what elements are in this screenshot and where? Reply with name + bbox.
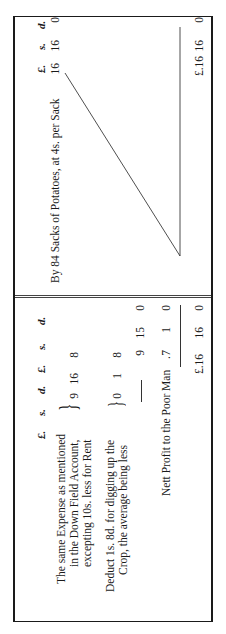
credit-total-pounds: £.16 (193, 56, 206, 76)
credit-total-shillings: 16 (193, 40, 205, 58)
rotated-account-page: £. s. d. £. s. d. The same Expense as me… (0, 0, 226, 634)
cancellation-lines (15, 15, 215, 621)
diagonal-line (65, 73, 180, 256)
credit-total-pence: 0 (193, 17, 205, 35)
account-table: £. s. d. £. s. d. The same Expense as me… (13, 16, 213, 622)
